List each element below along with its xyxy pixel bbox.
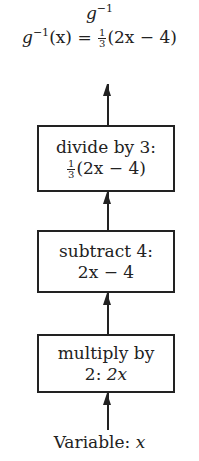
eq-fraction: 13 (98, 28, 106, 49)
eq-equals: = (77, 27, 91, 47)
step-box-subtract: subtract 4: 2x − 4 (37, 230, 175, 293)
step-label: multiply by (39, 343, 173, 364)
step-expr: 13(2x − 4) (39, 158, 173, 180)
input-label: Variable: (54, 432, 131, 452)
result-equation: g−1(x) = 13(2x − 4) (0, 26, 199, 49)
diagram-title: g−1 (0, 2, 199, 23)
title-exponent: −1 (97, 2, 113, 15)
step-box-multiply: multiply by 2: 2x (37, 334, 175, 393)
arrow-up-icon (107, 84, 109, 125)
eq-lhs-exponent: −1 (33, 26, 49, 39)
input-var: x (136, 432, 146, 452)
step-expr: 2x − 4 (39, 262, 173, 283)
eq-lhs-base: g (22, 27, 33, 47)
step-expr: 2: 2x (39, 364, 173, 385)
step-frac-den: 3 (67, 170, 75, 180)
arrow-up-icon (107, 393, 109, 430)
arrow-up-icon (107, 192, 109, 230)
eq-frac-den: 3 (98, 39, 106, 49)
eq-frac-num: 1 (98, 28, 106, 39)
input-variable: Variable: x (0, 432, 199, 452)
step-expr-text: (2x − 4) (76, 158, 146, 178)
step-expr-text: 2x (107, 364, 127, 384)
eq-rhs: (2x − 4) (107, 27, 177, 47)
eq-lhs-arg: (x) (49, 27, 72, 47)
step-label2: 2: (85, 364, 102, 384)
step-fraction: 13 (67, 159, 75, 180)
step-label: divide by 3: (39, 137, 173, 158)
title-base: g (86, 3, 97, 23)
arrow-up-icon (107, 293, 109, 334)
step-box-divide: divide by 3: 13(2x − 4) (37, 125, 175, 192)
step-label: subtract 4: (39, 241, 173, 262)
